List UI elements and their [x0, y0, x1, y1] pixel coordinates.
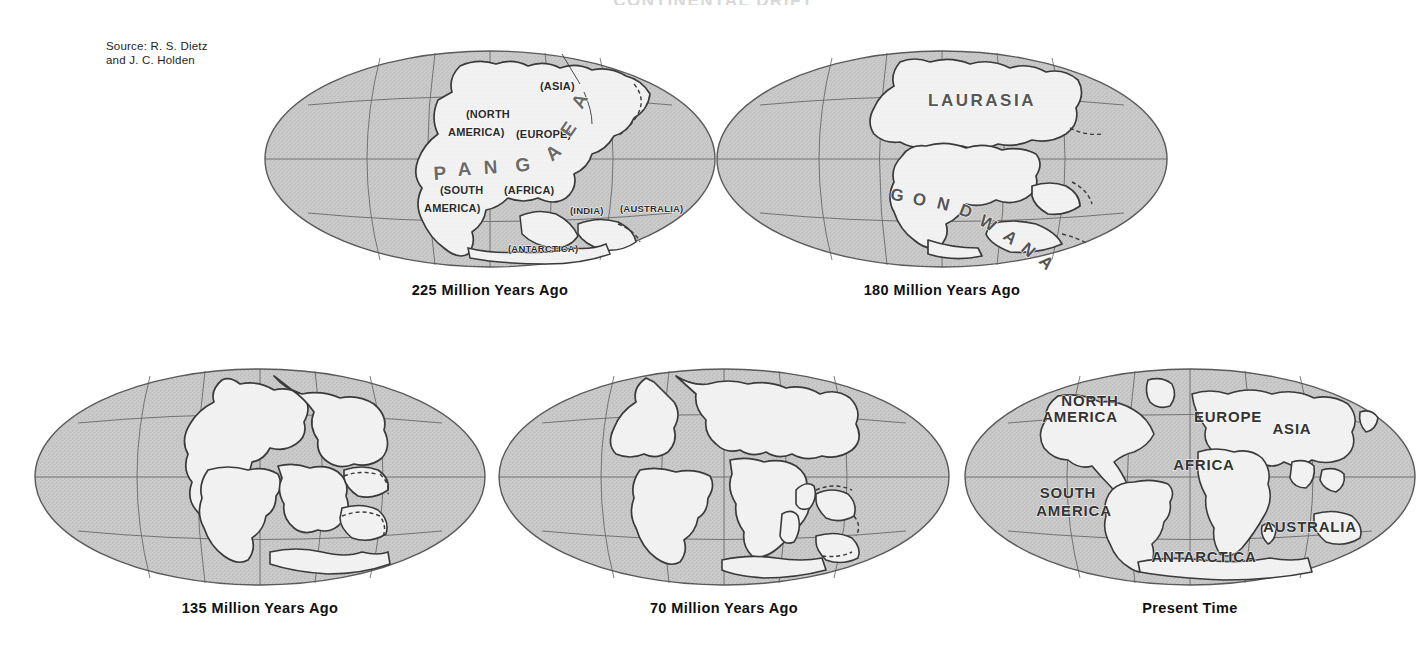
- svg-text:G: G: [890, 185, 908, 206]
- label-europe-present: EUROPE: [1194, 408, 1262, 425]
- label-south-america-present: AMERICA: [1036, 502, 1112, 519]
- svg-text:P: P: [433, 162, 447, 184]
- label-africa-225: (AFRICA): [504, 184, 555, 196]
- globe-map-180: LAURASIA G O N D W A N A: [714, 48, 1170, 270]
- caption-135-million: 135 Million Years Ago: [32, 600, 488, 616]
- label-north-america-present: AMERICA: [1042, 408, 1118, 425]
- svg-text:A: A: [457, 158, 472, 180]
- globe-map-70: [496, 366, 952, 588]
- panel-180-million: LAURASIA G O N D W A N A 180 Million Yea…: [714, 48, 1170, 298]
- caption-70-million: 70 Million Years Ago: [496, 600, 952, 616]
- panel-225-million: (ASIA) (NORTH AMERICA) (EUROPE) (AFRICA)…: [262, 48, 718, 298]
- label-australia-present: AUSTRALIA: [1263, 518, 1357, 535]
- label-north-225: (NORTH: [466, 108, 510, 120]
- label-south-225: (SOUTH: [440, 184, 483, 196]
- globe-map-225: (ASIA) (NORTH AMERICA) (EUROPE) (AFRICA)…: [262, 48, 718, 270]
- svg-text:N: N: [483, 156, 498, 178]
- globe-map-present: NORTH AMERICA SOUTH AMERICA EUROPE ASIA …: [962, 366, 1418, 588]
- label-south-america-225: AMERICA): [424, 202, 481, 214]
- label-africa-present: AFRICA: [1173, 456, 1234, 473]
- caption-225-million: 225 Million Years Ago: [262, 282, 718, 298]
- panel-135-million: 135 Million Years Ago: [32, 366, 488, 616]
- page-title-partial: CONTINENTAL DRIFT: [0, 0, 1427, 5]
- source-credit: Source: R. S. Dietz and J. C. Holden: [106, 39, 208, 67]
- label-india-225: (INDIA): [570, 205, 604, 216]
- label-antarctica-225: (ANTARCTICA): [508, 243, 578, 254]
- label-australia-225: (AUSTRALIA): [620, 203, 683, 214]
- continental-drift-figure: CONTINENTAL DRIFT Source: R. S. Dietz an…: [0, 0, 1427, 668]
- svg-text:O: O: [911, 189, 930, 210]
- label-asia-225: (ASIA): [540, 80, 575, 92]
- caption-180-million: 180 Million Years Ago: [714, 282, 1170, 298]
- globe-map-135: [32, 366, 488, 588]
- label-laurasia-180: LAURASIA: [928, 91, 1036, 110]
- caption-present-time: Present Time: [962, 600, 1418, 616]
- label-north-present: NORTH: [1061, 392, 1118, 409]
- panel-70-million: 70 Million Years Ago: [496, 366, 952, 616]
- label-asia-present: ASIA: [1272, 420, 1311, 437]
- panel-present-time: NORTH AMERICA SOUTH AMERICA EUROPE ASIA …: [962, 366, 1418, 616]
- label-north-america-225: AMERICA): [448, 126, 505, 138]
- label-antarctica-present: ANTARCTICA: [1151, 548, 1256, 565]
- svg-text:G: G: [514, 154, 531, 176]
- label-south-present: SOUTH: [1040, 484, 1097, 501]
